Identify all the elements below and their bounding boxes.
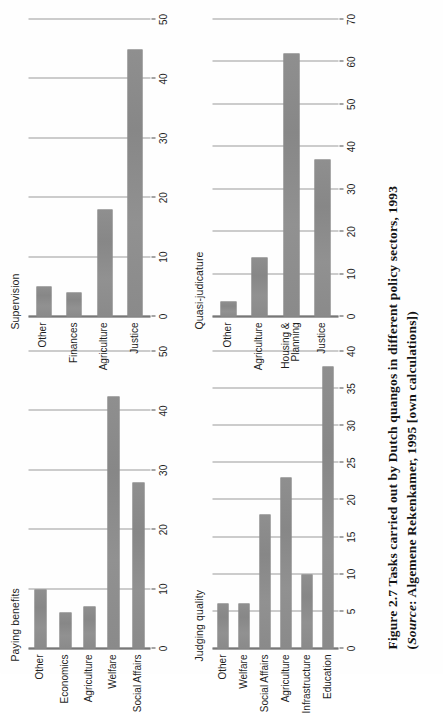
chart-panel-quasi-judicature: Quasi-judicature 010203040506070OtherAgr… [190, 7, 370, 333]
gridline-30 [28, 469, 150, 470]
category-label: Other [34, 654, 44, 717]
axis-tick-70 [339, 18, 343, 19]
axis-tick-label-50: 50 [345, 90, 356, 118]
axis-tick-20 [339, 499, 343, 500]
bar [251, 257, 267, 316]
bar [127, 49, 142, 316]
gridline-50 [28, 18, 150, 19]
axis-tick-label-25: 25 [345, 448, 356, 476]
axis-tick-label-30: 30 [157, 124, 168, 152]
caption-paren-open: ( [403, 644, 418, 649]
axis-tick-label-0: 0 [157, 302, 168, 330]
axis-tick-label-50: 50 [157, 5, 168, 33]
category-label: Agriculture [280, 654, 290, 717]
axis-tick-35 [339, 387, 343, 388]
category-label: Social Affairs [132, 654, 142, 717]
category-label: Agriculture [253, 322, 263, 440]
figure-caption: Figure 2.7 Tasks carried out by Dutch qu… [382, 21, 420, 649]
bar [238, 603, 249, 648]
axis-tick-0 [151, 647, 155, 648]
axis-tick-0 [339, 315, 343, 316]
axis-tick-label-60: 60 [345, 47, 356, 75]
axis-tick-15 [339, 536, 343, 537]
axis-tick-label-10: 10 [157, 575, 168, 603]
axis-tick-label-35: 35 [345, 374, 356, 402]
figure-caption-line1: Figure 2.7 Tasks carried out by Dutch qu… [384, 185, 399, 649]
category-label: Justice [129, 322, 139, 440]
bar [132, 482, 144, 648]
category-label: Other [217, 654, 227, 717]
axis-tick-20 [339, 230, 343, 231]
axis-tick-label-20: 20 [345, 486, 356, 514]
bar [97, 209, 112, 316]
gridline-50 [212, 103, 338, 104]
axis-tick-50 [151, 350, 155, 351]
axis-tick-label-0: 0 [157, 634, 168, 662]
bar [314, 159, 330, 316]
axis-tick-label-30: 30 [157, 456, 168, 484]
axis-tick-label-0: 0 [345, 634, 356, 662]
bar [36, 286, 51, 316]
axis-tick-40 [151, 77, 155, 78]
axis-tick-25 [339, 461, 343, 462]
axis-tick-40 [339, 350, 343, 351]
axis-tick-10 [151, 588, 155, 589]
axis-tick-label-30: 30 [345, 411, 356, 439]
caption-source-word: Source [403, 604, 418, 644]
category-label: Justice [316, 322, 326, 440]
bar [301, 574, 312, 648]
category-label: Finances [68, 322, 78, 440]
chart-title-judging-quality: Judging quality [192, 589, 204, 661]
axis-tick-60 [339, 60, 343, 61]
axis-tick-label-0: 0 [345, 302, 356, 330]
category-label: Agriculture [83, 654, 93, 717]
bar [283, 53, 299, 316]
gridline-25 [212, 461, 338, 462]
bar [259, 514, 270, 648]
category-label: Housing &Planning [280, 322, 300, 440]
bar [107, 396, 119, 648]
axis-tick-label-20: 20 [157, 183, 168, 211]
axis-tick-30 [339, 188, 343, 189]
axis-tick-label-40: 40 [157, 396, 168, 424]
caption-source-rest: : Algemene Rekenkamer, 1995 [own calcula… [403, 311, 418, 605]
category-label: Education [322, 654, 332, 717]
axis-tick-label-10: 10 [345, 260, 356, 288]
axis-tick-label-10: 10 [157, 243, 168, 271]
axis-tick-30 [151, 469, 155, 470]
axis-tick-10 [339, 573, 343, 574]
axis-tick-label-40: 40 [345, 337, 356, 365]
chart-panel-supervision: Supervision 01020304050OtherFinancesAgri… [6, 7, 186, 333]
bar [66, 292, 81, 316]
axis-tick-label-30: 30 [345, 175, 356, 203]
plot-area-quasi-judicature: 010203040506070OtherAgricultureHousing &… [212, 20, 338, 317]
axis-tick-50 [339, 103, 343, 104]
bar [59, 612, 71, 648]
gridline-5 [212, 610, 338, 611]
bar [220, 301, 236, 316]
gridline-20 [212, 499, 338, 500]
plot-area-supervision: 01020304050OtherFinancesAgricultureJusti… [28, 20, 150, 317]
category-label: Agriculture [98, 322, 108, 440]
bar [34, 589, 46, 648]
axis-tick-0 [339, 647, 343, 648]
category-label: Other [37, 322, 47, 440]
bar [280, 477, 291, 648]
axis-tick-0 [151, 315, 155, 316]
category-label: Social Affairs [259, 654, 269, 717]
axis-tick-label-50: 50 [157, 337, 168, 365]
category-label: Other [222, 322, 232, 440]
axis-tick-label-10: 10 [345, 560, 356, 588]
gridline-0 [212, 647, 338, 648]
axis-tick-label-70: 70 [345, 5, 356, 33]
chart-title-quasi-judicature: Quasi-judicature [192, 251, 204, 329]
axis-tick-label-15: 15 [345, 523, 356, 551]
gridline-70 [212, 18, 338, 19]
chart-title-supervision: Supervision [8, 273, 20, 329]
bar [217, 603, 228, 648]
axis-tick-20 [151, 196, 155, 197]
category-label: Infrastructure [301, 654, 311, 717]
axis-tick-label-5: 5 [345, 597, 356, 625]
axis-tick-40 [339, 145, 343, 146]
